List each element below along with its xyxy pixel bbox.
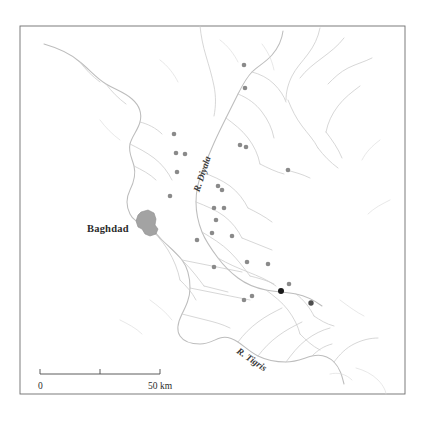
site-dot <box>242 298 247 303</box>
site-dot <box>212 265 217 270</box>
site-dot <box>212 206 217 211</box>
river-faint-branch <box>120 320 142 334</box>
river-faint-branch <box>262 44 274 70</box>
river-faint-branch <box>368 200 390 214</box>
site-dot <box>183 152 188 157</box>
river-diyala-course <box>196 31 322 306</box>
site-dot <box>172 132 177 137</box>
river-branch <box>140 122 162 134</box>
river-branch <box>314 316 334 326</box>
site-dot <box>287 282 292 287</box>
river-faint-branch <box>100 120 120 140</box>
site-dot <box>243 86 248 91</box>
river-branch <box>334 338 378 362</box>
site-dot <box>266 262 271 267</box>
river-tigris-course <box>44 44 344 384</box>
river-diyala-label: R. Diyala <box>191 155 212 194</box>
scale-bar-end-label: 50 km <box>148 381 173 391</box>
site-dot <box>230 234 235 239</box>
site-dot <box>286 168 291 173</box>
river-branch <box>318 148 338 168</box>
river-network <box>44 26 390 394</box>
map-canvas: Baghdad R. Diyala R. Tigris 0 50 km <box>0 0 426 424</box>
site-dot <box>244 145 249 150</box>
river-faint-branch <box>340 300 364 316</box>
site-dot <box>195 238 200 243</box>
river-branch <box>326 86 360 132</box>
river-branch <box>134 166 156 180</box>
site-dot-highlighted <box>278 288 284 294</box>
scale-bar: 0 50 km <box>38 369 173 391</box>
site-dot <box>222 206 227 211</box>
river-branch <box>328 58 372 84</box>
site-dot <box>220 188 225 193</box>
river-branch <box>130 144 172 180</box>
river-branch <box>258 322 302 356</box>
river-branch <box>252 72 286 102</box>
river-branch <box>238 308 282 342</box>
river-branch <box>242 238 272 250</box>
map-figure: Baghdad R. Diyala R. Tigris 0 50 km <box>0 0 426 424</box>
baghdad-label: Baghdad <box>87 223 129 234</box>
site-dot <box>245 260 250 265</box>
river-branch <box>202 172 248 208</box>
river-branch <box>300 38 344 78</box>
river-branch <box>260 164 284 174</box>
site-dot <box>250 294 255 299</box>
site-dot <box>242 63 247 68</box>
site-dot <box>174 151 179 156</box>
river-branch <box>238 94 274 138</box>
site-dot <box>216 184 221 189</box>
river-branch <box>182 314 230 328</box>
river-branch <box>326 132 342 158</box>
site-dot <box>168 194 173 199</box>
river-branch <box>248 208 272 222</box>
river-branch <box>160 238 204 286</box>
river-faint-branch <box>220 40 238 62</box>
river-faint-branch <box>362 140 380 160</box>
river-faint-branch <box>356 368 386 394</box>
river-branch <box>200 26 216 116</box>
river-faint-branch <box>160 60 178 82</box>
river-branch <box>266 290 300 334</box>
site-dot-highlighted <box>308 300 313 305</box>
river-branch <box>180 280 196 300</box>
baghdad-city-polygon <box>136 210 158 236</box>
site-dot <box>210 231 215 236</box>
scale-bar-start-label: 0 <box>38 381 43 391</box>
site-dot <box>214 218 219 223</box>
river-faint-branch <box>150 300 172 320</box>
river-branch <box>106 84 126 104</box>
site-dot <box>175 170 180 175</box>
site-dot <box>238 143 243 148</box>
river-branch <box>204 286 228 292</box>
map-frame <box>20 26 405 394</box>
river-branch <box>288 100 318 148</box>
river-branch <box>226 118 260 164</box>
river-branch <box>312 344 332 356</box>
